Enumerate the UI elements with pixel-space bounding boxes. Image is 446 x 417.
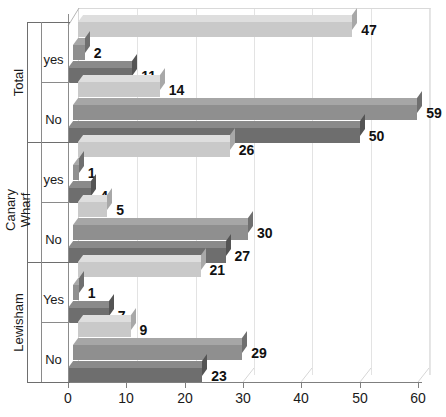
data-label-total-no-series-2: 59 [426,106,442,120]
bar-top-face [78,255,206,262]
x-tick-20 [185,382,186,388]
data-label-lewisham-no-series-2: 29 [251,346,267,360]
bar-front-face [73,165,79,180]
bar-top-face [68,121,365,128]
data-label-lewisham-yes-series-2: 1 [88,286,96,300]
sub-separator-canary-wharf [41,202,70,203]
data-label-canary-wharf-yes-series-1: 26 [239,143,255,157]
bar-front-face [78,82,160,97]
bar-front-face [73,345,242,360]
y-label-lewisham-yes: Yes [40,293,67,307]
bar-top-face [68,241,231,248]
bar-front-face [73,105,417,120]
data-label-total-no-series-1: 14 [169,83,185,97]
data-label-canary-wharf-no-series-2: 30 [257,226,273,240]
y-label-lewisham-no: No [40,353,67,367]
y-group-label-canary-wharf: Canary Wharf [3,170,33,250]
y-label-total-yes: yes [40,53,67,67]
bar-front-face [78,22,352,37]
bar-top-face [78,15,357,22]
data-label-lewisham-no-series-3: 23 [211,369,227,383]
bar-canary-wharf-no-series-2 [73,225,248,240]
x-tick-label-60: 60 [398,390,438,406]
data-label-lewisham-no-series-1: 9 [140,323,148,337]
bar-top-face [68,61,137,68]
bar-lewisham-no-series-3 [68,368,202,383]
gridline-20 [196,9,197,375]
bar-top-face [78,135,235,142]
bar-front-face [68,368,202,383]
bar-front-face [78,142,230,157]
x-tick-label-0: 0 [48,390,88,406]
group-separator-2 [27,262,70,263]
x-tick-label-30: 30 [223,390,263,406]
data-label-total-no-series-3: 50 [369,129,385,143]
group-separator-bottom [27,382,70,383]
x-tick-60 [418,382,419,388]
y-axis-line [68,14,69,382]
bar-total-yes-series-1 [78,22,352,37]
bar-front-face [78,202,107,217]
gridline-40 [312,9,313,375]
x-tick-label-20: 20 [165,390,205,406]
bar-lewisham-no-series-2 [73,345,242,360]
chart-title-clipped [0,0,446,7]
x-tick-10 [126,382,127,388]
bar-total-no-series-2 [73,105,417,120]
bar-top-face [73,218,253,225]
bar-lewisham-no-series-1 [78,322,131,337]
data-label-canary-wharf-no-series-1: 5 [116,203,124,217]
bar-canary-wharf-no-series-1 [78,202,107,217]
y-group-label-total: Total [11,43,26,123]
data-label-total-yes-series-2: 2 [94,46,102,60]
sub-separator-total [41,82,70,83]
bar-top-face [68,301,114,308]
data-label-total-yes-series-1: 47 [361,23,377,37]
x-axis-line [58,382,422,383]
bar-lewisham-yes-series-2 [73,285,79,300]
y-label-total-no: No [40,113,67,127]
x-tick-label-10: 10 [106,390,146,406]
chart-container: 47211145950261453027211792923 0 10 20 30… [0,0,446,417]
group-separator-top [27,22,70,23]
sub-separator-lewisham [41,322,70,323]
bar-canary-wharf-yes-series-1 [78,142,230,157]
bar-total-yes-series-2 [73,45,85,60]
bar-front-face [78,322,131,337]
x-tick-label-50: 50 [340,390,380,406]
gridline-10 [137,9,138,375]
x-tick-50 [360,382,361,388]
bar-front-face [78,262,201,277]
data-label-lewisham-yes-series-1: 21 [210,263,226,277]
bar-top-face [78,315,136,322]
y-group-label-lewisham: Lewisham [11,283,26,363]
x-tick-30 [243,382,244,388]
group-separator-1 [27,142,70,143]
bar-front-face [73,45,85,60]
bar-lewisham-yes-series-1 [78,262,201,277]
bar-canary-wharf-yes-series-2 [73,165,79,180]
gridline-60 [429,9,430,375]
bar-front-face [73,225,248,240]
x-tick-40 [301,382,302,388]
gridline-50 [371,9,372,375]
bar-top-face [78,75,165,82]
y-label-canarywharf-yes: yes [40,173,67,187]
bar-top-face [73,98,422,105]
x-tick-label-40: 40 [281,390,321,406]
bar-front-face [73,285,79,300]
bar-top-face [68,361,207,368]
bar-top-face [73,338,247,345]
y-label-canarywharf-no: No [40,233,67,247]
gridline-30 [254,9,255,375]
bar-total-no-series-1 [78,82,160,97]
data-label-canary-wharf-no-series-3: 27 [235,249,251,263]
